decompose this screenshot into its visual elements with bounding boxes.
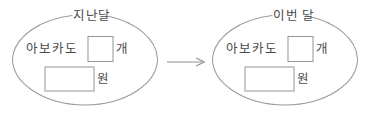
oval-outline-last-month (13, 16, 158, 106)
item-label-last-month: 아보카도 (26, 43, 78, 56)
item-label-this-month: 아보카도 (226, 43, 278, 56)
group-last-month (13, 16, 158, 106)
arrow-connector (167, 58, 205, 65)
price-input-box-this-month[interactable] (245, 67, 294, 91)
count-input-box-last-month[interactable] (88, 37, 113, 62)
price-input-box-last-month[interactable] (45, 67, 94, 91)
count-unit-last-month: 개 (116, 43, 128, 56)
oval-outline-this-month (213, 16, 358, 106)
group-title-last-month: 지난달 (73, 10, 111, 23)
count-input-box-this-month[interactable] (288, 37, 313, 62)
worksheet-canvas: 지난달 아보카도 개 원 이번 달 아보카도 개 원 (0, 0, 365, 119)
price-unit-last-month: 원 (97, 73, 109, 86)
group-title-this-month: 이번 달 (273, 10, 315, 23)
count-unit-this-month: 개 (316, 43, 328, 56)
group-this-month (213, 16, 358, 106)
price-unit-this-month: 원 (297, 73, 309, 86)
